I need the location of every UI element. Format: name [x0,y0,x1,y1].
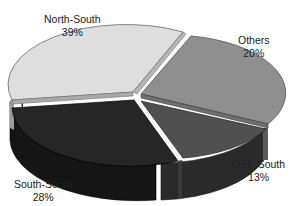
slice-others-side [263,128,268,160]
label-oee-south: OEE-South 13% [232,158,285,184]
label-north-south: North-South 39% [44,13,101,39]
label-south-south-name: South-South [14,178,72,191]
label-oee-south-pct: 13% [232,171,285,184]
label-others-name: Others [238,34,270,47]
label-south-south: South-South 28% [14,178,72,204]
label-others-pct: 20% [238,47,270,60]
slice-oee-south-edge [178,160,182,198]
label-north-south-name: North-South [44,13,101,26]
label-others: Others 20% [238,34,270,60]
label-north-south-pct: 39% [44,26,101,39]
label-south-south-pct: 28% [14,191,72,204]
label-oee-south-name: OEE-South [232,158,285,171]
